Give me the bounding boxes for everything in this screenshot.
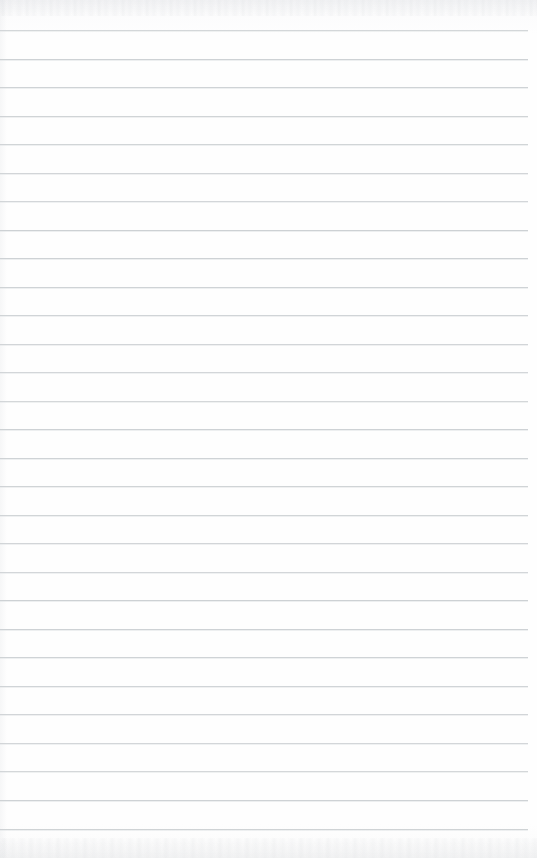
ruled-notebook-page xyxy=(0,0,537,858)
page-written-content[interactable] xyxy=(0,0,537,858)
